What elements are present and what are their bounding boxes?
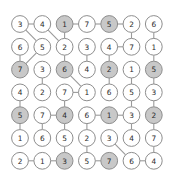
node-label: 6	[85, 111, 90, 120]
node-label: 2	[40, 88, 45, 97]
graph-node[interactable]: 4	[101, 38, 118, 55]
graph-node[interactable]: 6	[34, 130, 51, 147]
graph-node[interactable]: 7	[34, 107, 51, 124]
node-label: 3	[62, 157, 67, 166]
node-label: 3	[18, 20, 23, 29]
graph-node[interactable]: 1	[56, 16, 73, 33]
graph-node[interactable]: 2	[145, 107, 162, 124]
graph-node[interactable]: 5	[79, 152, 96, 169]
graph-node[interactable]: 5	[101, 16, 118, 33]
graph-node[interactable]: 1	[123, 61, 140, 78]
graph-node[interactable]: 4	[145, 152, 162, 169]
node-label: 7	[129, 43, 134, 52]
node-label: 4	[62, 111, 67, 120]
graph-node[interactable]: 2	[34, 84, 51, 101]
graph-node[interactable]: 7	[12, 61, 29, 78]
graph-node[interactable]: 5	[123, 84, 140, 101]
node-label: 7	[62, 88, 67, 97]
node-label: 6	[129, 157, 134, 166]
node-label: 5	[62, 134, 67, 143]
node-label: 6	[62, 65, 67, 74]
graph-node[interactable]: 5	[145, 61, 162, 78]
node-label: 7	[40, 111, 45, 120]
graph-edge	[115, 144, 126, 155]
graph-node[interactable]: 1	[101, 107, 118, 124]
graph-node[interactable]: 6	[101, 84, 118, 101]
graph-node[interactable]: 4	[12, 84, 29, 101]
node-label: 5	[129, 88, 134, 97]
graph-node[interactable]: 2	[101, 61, 118, 78]
grid-graph-svg: 3417526652347173642154271653574613216523…	[0, 0, 173, 181]
node-label: 5	[151, 65, 156, 74]
graph-node[interactable]: 3	[101, 130, 118, 147]
node-label: 7	[85, 20, 90, 29]
node-label: 1	[18, 134, 23, 143]
graph-node[interactable]: 3	[145, 84, 162, 101]
graph-node[interactable]: 5	[12, 107, 29, 124]
graph-node[interactable]: 2	[56, 38, 73, 55]
graph-node[interactable]: 7	[101, 152, 118, 169]
graph-node[interactable]: 3	[34, 61, 51, 78]
node-label: 5	[85, 157, 90, 166]
graph-node[interactable]: 1	[34, 152, 51, 169]
node-label: 2	[107, 65, 112, 74]
graph-node[interactable]: 5	[34, 38, 51, 55]
node-label: 4	[18, 88, 23, 97]
graph-node[interactable]: 6	[56, 61, 73, 78]
graph-node[interactable]: 1	[145, 38, 162, 55]
node-label: 5	[40, 43, 45, 52]
node-label: 3	[107, 134, 112, 143]
graph-node[interactable]: 3	[56, 152, 73, 169]
node-label: 3	[85, 43, 90, 52]
graph-node[interactable]: 2	[79, 130, 96, 147]
node-label: 4	[85, 65, 90, 74]
graph-node[interactable]: 5	[56, 130, 73, 147]
node-label: 2	[129, 20, 134, 29]
graph-node[interactable]: 3	[123, 107, 140, 124]
node-label: 2	[18, 157, 23, 166]
graph-node[interactable]: 7	[79, 16, 96, 33]
node-label: 4	[107, 43, 112, 52]
graph-node[interactable]: 4	[123, 130, 140, 147]
graph-node[interactable]: 7	[145, 130, 162, 147]
node-label: 7	[107, 157, 112, 166]
graph-node[interactable]: 6	[12, 38, 29, 55]
graph-node[interactable]: 6	[123, 152, 140, 169]
graph-node[interactable]: 2	[123, 16, 140, 33]
node-label: 3	[40, 65, 45, 74]
graph-node[interactable]: 2	[12, 152, 29, 169]
graph-node[interactable]: 4	[79, 61, 96, 78]
node-label: 4	[129, 134, 134, 143]
graph-node[interactable]: 3	[12, 16, 29, 33]
graph-edge	[26, 30, 37, 41]
node-label: 7	[151, 134, 156, 143]
graph-node[interactable]: 3	[79, 38, 96, 55]
graph-node[interactable]: 1	[12, 130, 29, 147]
node-label: 5	[18, 111, 23, 120]
node-label: 6	[40, 134, 45, 143]
graph-node[interactable]: 4	[34, 16, 51, 33]
graph-edge	[26, 53, 37, 64]
node-label: 6	[107, 88, 112, 97]
graph-node[interactable]: 6	[79, 107, 96, 124]
node-label: 1	[129, 65, 134, 74]
graph-node[interactable]: 1	[79, 84, 96, 101]
diagram-canvas: 3417526652347173642154271653574613216523…	[0, 0, 173, 181]
node-label: 7	[18, 65, 23, 74]
node-label: 1	[107, 111, 112, 120]
node-label: 2	[62, 43, 67, 52]
graph-node[interactable]: 6	[145, 16, 162, 33]
node-label: 3	[129, 111, 134, 120]
node-label: 1	[40, 157, 45, 166]
graph-edge	[70, 76, 81, 87]
node-label: 3	[151, 88, 156, 97]
graph-node[interactable]: 4	[56, 107, 73, 124]
graph-node[interactable]: 7	[123, 38, 140, 55]
node-label: 4	[40, 20, 45, 29]
node-label: 6	[18, 43, 23, 52]
node-label: 4	[151, 157, 156, 166]
graph-edge	[48, 30, 59, 41]
node-label: 2	[85, 134, 90, 143]
graph-node[interactable]: 7	[56, 84, 73, 101]
node-label: 1	[151, 43, 156, 52]
